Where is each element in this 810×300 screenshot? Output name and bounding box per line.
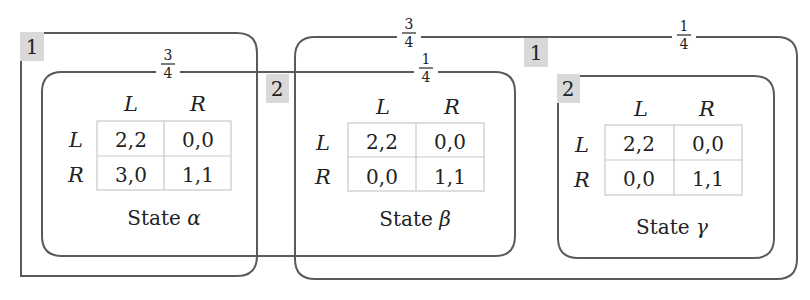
state-caption: State α: [127, 206, 201, 230]
state-symbol: γ: [696, 215, 708, 239]
state-symbol: β: [438, 207, 451, 231]
player-label-2-left: 2: [266, 74, 289, 103]
col-header: R: [443, 95, 460, 119]
row-header: R: [573, 168, 590, 192]
payoff-cell: 2,2: [115, 128, 147, 152]
state-gamma: L R L R 2,2 0,0 0,0 1,1 State γ: [573, 97, 742, 239]
info-set-player1-left: [21, 33, 257, 276]
col-header: R: [698, 97, 715, 121]
fraction-numerator: 1: [422, 51, 431, 67]
fraction-numerator: 3: [164, 47, 173, 63]
col-header: L: [633, 97, 648, 121]
payoff-cell: 1,1: [182, 163, 214, 187]
row-header: R: [67, 163, 84, 187]
state-symbol: α: [187, 206, 201, 230]
row-header: L: [315, 131, 330, 155]
col-header: R: [189, 92, 206, 116]
payoff-cell: 2,2: [623, 132, 655, 156]
player-label-2-right: 2: [557, 74, 580, 103]
state-caption: State γ: [636, 215, 708, 239]
fraction-numerator: 1: [680, 18, 689, 34]
payoff-cell: 0,0: [692, 132, 724, 156]
row-header: L: [68, 128, 83, 152]
svg-text:2: 2: [562, 77, 575, 101]
payoff-cell: 1,1: [692, 167, 724, 191]
svg-text:2: 2: [271, 77, 284, 101]
fraction-denominator: 4: [680, 36, 689, 52]
payoff-cell: 2,2: [366, 130, 398, 154]
player-label-1-left: 1: [20, 32, 44, 61]
payoff-cell: 1,1: [434, 165, 466, 189]
payoff-cell: 0,0: [182, 128, 214, 152]
fraction-denominator: 4: [405, 34, 414, 50]
payoff-cell: 3,0: [115, 163, 147, 187]
payoff-cell: 0,0: [434, 130, 466, 154]
state-beta: L R L R 2,2 0,0 0,0 1,1 State β: [314, 95, 484, 231]
fraction-denominator: 4: [164, 65, 173, 81]
svg-text:1: 1: [26, 35, 39, 59]
info-set-player1-right: [295, 37, 797, 279]
state-alpha: L R L R 2,2 0,0 3,0 1,1 State α: [67, 92, 231, 230]
row-header: R: [314, 165, 331, 189]
col-header: L: [375, 95, 390, 119]
payoff-cell: 0,0: [366, 165, 398, 189]
information-structure-diagram: 3 4 1 4 3 4 1 4 1 2 1 2 L R L R: [0, 0, 810, 300]
payoff-cell: 0,0: [623, 167, 655, 191]
fraction-numerator: 3: [405, 16, 414, 32]
player-label-1-right: 1: [524, 38, 548, 67]
state-caption: State β: [379, 207, 450, 231]
col-header: L: [123, 92, 138, 116]
row-header: L: [574, 133, 589, 157]
fraction-denominator: 4: [422, 69, 431, 85]
svg-text:1: 1: [530, 41, 543, 65]
